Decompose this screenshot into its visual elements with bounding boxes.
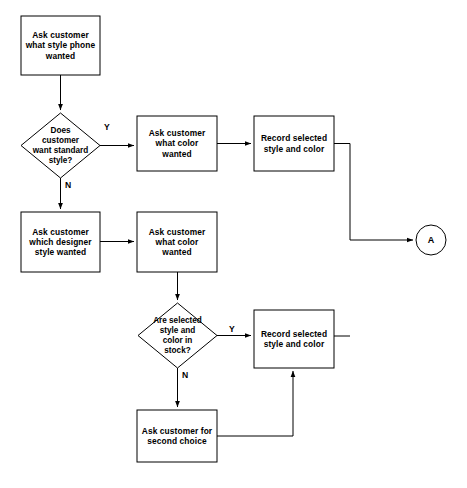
node-hit-connector-a[interactable] [416, 225, 446, 255]
node-hit-record-top[interactable] [254, 116, 334, 171]
edge-second-choice-to-record-bottom [217, 371, 293, 436]
node-hit-decide-stock[interactable] [138, 303, 217, 368]
flowchart-canvas: Ask customer what style phone wanted Doe… [0, 0, 467, 488]
node-hit-ask-color-top[interactable] [137, 116, 217, 171]
node-hit-decide-standard[interactable] [21, 113, 100, 178]
node-hit-ask-color-mid[interactable] [137, 212, 217, 272]
node-hit-ask-designer[interactable] [21, 212, 100, 272]
node-hit-ask-style[interactable] [21, 16, 100, 75]
node-hit-record-bottom[interactable] [254, 310, 334, 368]
node-hit-ask-second-choice[interactable] [137, 410, 217, 462]
edge-record-top-to-connector-a [334, 144, 413, 241]
